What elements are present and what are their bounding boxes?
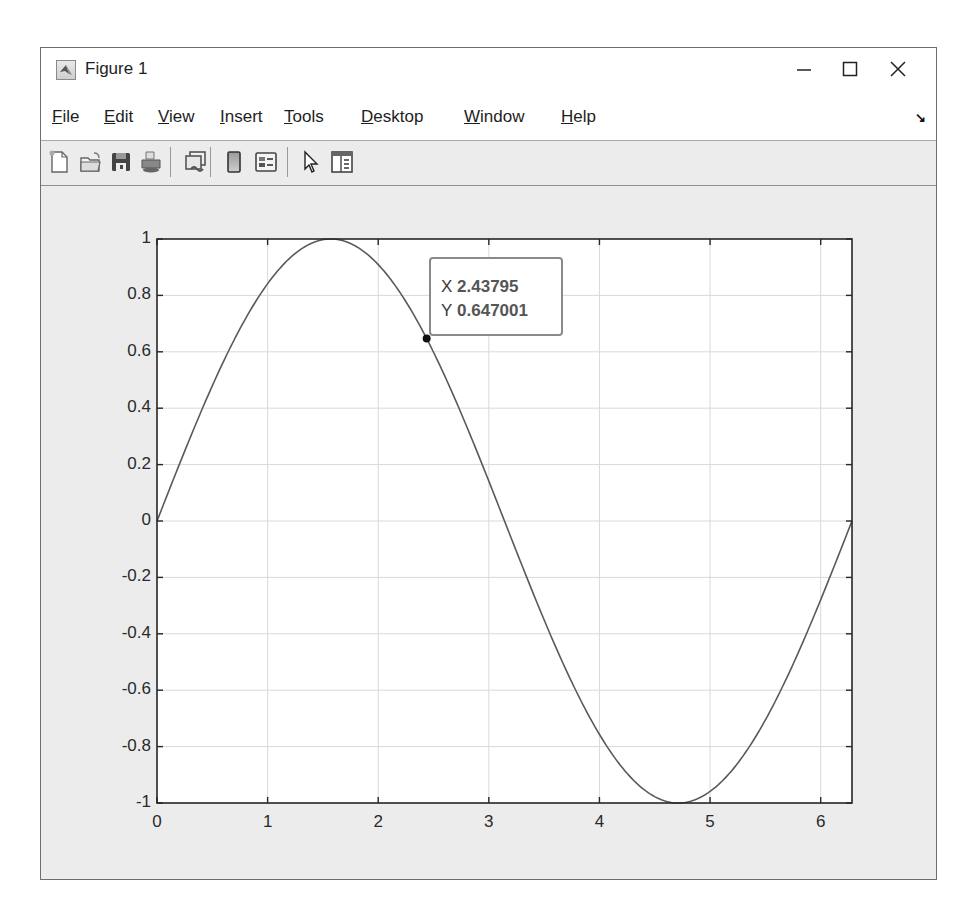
menu-label-rest: indow	[480, 107, 524, 126]
y-tick-label: 0.6	[91, 341, 151, 361]
insert-colorbar-button[interactable]	[221, 149, 247, 175]
datatip-x-label: X	[441, 277, 452, 296]
y-tick-label: -0.6	[91, 679, 151, 699]
toolbar-separator	[170, 147, 171, 177]
x-tick-label: 3	[474, 812, 504, 832]
pointer-arrow-icon	[298, 149, 324, 175]
y-tick-label: -0.4	[91, 623, 151, 643]
menu-desktop[interactable]: Desktop	[361, 107, 423, 127]
menu-insert[interactable]: Insert	[220, 107, 263, 127]
edit-plot-button[interactable]	[298, 149, 324, 175]
window-title: Figure 1	[85, 59, 147, 79]
menu-help[interactable]: Help	[561, 107, 596, 127]
figure-window: Figure 1 FileEditViewInsertToolsDesktopW…	[40, 47, 937, 880]
y-tick-label: -0.2	[91, 566, 151, 586]
minimize-button[interactable]	[781, 52, 827, 86]
figure-toolbar	[41, 141, 936, 186]
menu-accelerator: V	[158, 107, 169, 126]
close-button[interactable]	[875, 52, 921, 86]
open-file-button[interactable]	[78, 149, 104, 175]
datatip-x-row: X 2.43795	[441, 275, 561, 299]
minimize-icon	[796, 61, 812, 77]
maximize-button[interactable]	[827, 52, 873, 86]
floppy-disk-icon	[108, 149, 134, 175]
toolbar-separator	[287, 147, 288, 177]
menu-label-rest: dit	[115, 107, 133, 126]
menu-label-rest: ile	[62, 107, 79, 126]
menu-label-rest: esktop	[373, 107, 423, 126]
matlab-logo-icon	[56, 60, 76, 80]
x-tick-label: 1	[253, 812, 283, 832]
y-tick-label: 0.8	[91, 284, 151, 304]
menu-window[interactable]: Window	[464, 107, 524, 127]
menu-label-rest: elp	[573, 107, 596, 126]
maximize-icon	[842, 61, 858, 77]
datatip-marker[interactable]	[423, 335, 431, 343]
colorbar-icon	[221, 149, 247, 175]
insert-legend-button[interactable]	[253, 149, 279, 175]
print-figure-button[interactable]	[138, 149, 164, 175]
link-plot-icon	[183, 149, 209, 175]
datatip[interactable]: X 2.43795Y 0.647001	[429, 257, 563, 336]
x-tick-label: 0	[142, 812, 172, 832]
menu-file[interactable]: File	[52, 107, 79, 127]
menu-accelerator: F	[52, 107, 62, 126]
y-tick-label: 0.4	[91, 397, 151, 417]
datatip-y-value: 0.647001	[457, 301, 528, 320]
printer-icon	[138, 149, 164, 175]
menu-label-rest: iew	[169, 107, 195, 126]
link-plot-button[interactable]	[183, 149, 209, 175]
datatip-y-label: Y	[441, 301, 452, 320]
y-tick-label: -0.8	[91, 736, 151, 756]
y-tick-label: 0	[91, 510, 151, 530]
x-tick-label: 2	[363, 812, 393, 832]
title-bar[interactable]: Figure 1	[41, 48, 936, 94]
datatip-x-value: 2.43795	[457, 277, 518, 296]
menu-accelerator: H	[561, 107, 573, 126]
new-figure-button[interactable]	[47, 149, 73, 175]
y-tick-label: -1	[91, 792, 151, 812]
menu-accelerator: W	[464, 107, 480, 126]
toolbar-separator	[210, 147, 211, 177]
menu-tools[interactable]: Tools	[284, 107, 324, 127]
y-tick-label: 0.2	[91, 454, 151, 474]
menu-accelerator: T	[284, 107, 293, 126]
menu-label-rest: ools	[293, 107, 324, 126]
menu-label-rest: nsert	[225, 107, 263, 126]
menu-bar: FileEditViewInsertToolsDesktopWindowHelp…	[41, 94, 936, 141]
menu-edit[interactable]: Edit	[104, 107, 133, 127]
folder-open-icon	[78, 149, 104, 175]
plot-tools-icon	[329, 149, 355, 175]
dock-arrow-icon[interactable]: ↘	[915, 110, 926, 125]
x-tick-label: 6	[806, 812, 836, 832]
save-figure-button[interactable]	[108, 149, 134, 175]
legend-icon	[253, 149, 279, 175]
close-icon	[889, 60, 907, 78]
menu-accelerator: D	[361, 107, 373, 126]
datatip-y-row: Y 0.647001	[441, 299, 561, 323]
show-plot-tools-button[interactable]	[329, 149, 355, 175]
x-tick-label: 4	[584, 812, 614, 832]
menu-view[interactable]: View	[158, 107, 195, 127]
y-tick-label: 1	[91, 228, 151, 248]
menu-accelerator: E	[104, 107, 115, 126]
new-file-icon	[47, 149, 73, 175]
x-tick-label: 5	[695, 812, 725, 832]
figure-canvas[interactable]: 10.80.60.40.20-0.2-0.4-0.6-0.8-10123456X…	[41, 186, 936, 879]
